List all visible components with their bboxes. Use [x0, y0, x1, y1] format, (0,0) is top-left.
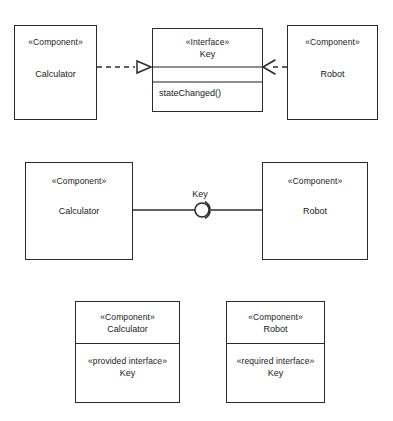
provided-interface-stereotype-calculator: «provided interface» — [75, 357, 180, 367]
required-interface-socket-icon — [205, 202, 210, 219]
component-name-robot-bottom: Robot — [226, 324, 325, 334]
component-name-robot-mid: Robot — [262, 206, 368, 216]
interface-name-key: Key — [152, 49, 263, 59]
component-compartment-divider-calculator — [76, 343, 179, 344]
assembly-connector-label-key: Key — [175, 189, 225, 199]
component-compartment-divider-robot — [227, 343, 324, 344]
interface-divider-lower — [153, 81, 262, 83]
open-arrowhead-icon — [263, 60, 275, 74]
component-stereotype-calculator-mid: «Component» — [25, 177, 133, 187]
component-name-calculator-mid: Calculator — [25, 206, 133, 216]
component-name-calculator-top: Calculator — [14, 69, 97, 79]
uml-component-diagram-canvas: «Component» Calculator «Interface» Key s… — [0, 0, 393, 421]
component-name-calculator-bottom: Calculator — [75, 324, 180, 334]
component-name-robot-top: Robot — [287, 69, 378, 79]
interface-divider-upper — [153, 66, 262, 68]
provided-interface-ball-icon — [195, 203, 209, 217]
hollow-triangle-arrowhead-icon — [137, 61, 151, 73]
component-stereotype-calculator-top: «Component» — [14, 38, 97, 48]
dependency-connector-robot-key — [263, 60, 287, 74]
component-stereotype-calculator-bottom: «Component» — [75, 313, 180, 323]
component-stereotype-robot-top: «Component» — [287, 38, 378, 48]
interface-stereotype-key: «Interface» — [152, 38, 263, 48]
required-interface-name-robot: Key — [226, 368, 325, 378]
interface-operation-statechanged: stateChanged() — [159, 88, 263, 98]
component-stereotype-robot-bottom: «Component» — [226, 313, 325, 323]
component-stereotype-robot-mid: «Component» — [262, 177, 368, 187]
provided-interface-name-calculator: Key — [75, 368, 180, 378]
required-interface-stereotype-robot: «required interface» — [226, 357, 325, 367]
realization-connector-calculator-key — [97, 61, 151, 73]
assembly-connector-key — [133, 202, 262, 219]
